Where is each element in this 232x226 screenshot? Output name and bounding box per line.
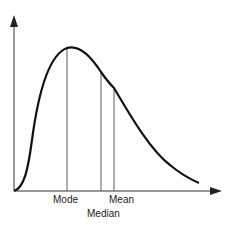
y-axis-arrow-icon (10, 15, 18, 27)
mean-label: Mean (109, 194, 134, 205)
distribution-curve (14, 47, 199, 191)
median-label: Median (87, 208, 120, 219)
x-axis-arrow-icon (210, 187, 222, 195)
skewed-distribution-chart (0, 0, 232, 226)
mode-label: Mode (53, 194, 78, 205)
